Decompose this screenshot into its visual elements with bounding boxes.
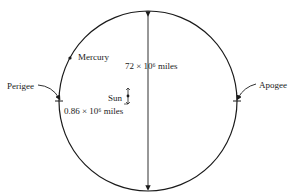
sun-dot [127, 95, 130, 98]
sun-offset-label: 0.86 × 10⁶ miles [64, 106, 124, 116]
orbit-diagram: Mercury 72 × 10⁶ miles Perigee Apogee Su… [0, 0, 297, 196]
perigee-label: Perigee [7, 81, 34, 91]
mercury-dot [68, 56, 71, 59]
minor-axis-label: 72 × 10⁶ miles [125, 61, 178, 71]
apogee-pointer [238, 84, 256, 98]
perigee-pointer [38, 85, 59, 98]
sun-label: Sun [108, 93, 123, 103]
mercury-label: Mercury [78, 52, 109, 62]
apogee-label: Apogee [259, 80, 287, 90]
